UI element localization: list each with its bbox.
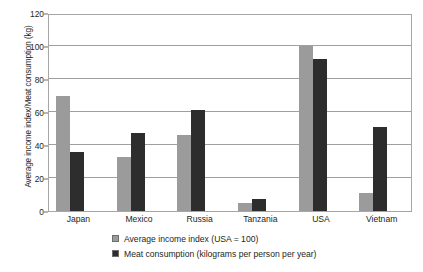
- plot-area: [48, 14, 412, 212]
- chart-legend: Average income index (USA = 100)Meat con…: [112, 232, 412, 262]
- bar-japan-income: [56, 96, 70, 212]
- bar-mexico-meat: [131, 133, 145, 211]
- x-tick-label-vietnam: Vietnam: [342, 214, 422, 224]
- legend-label: Average income index (USA = 100): [124, 234, 258, 244]
- bar-group-japan: [49, 15, 110, 211]
- y-tick-label-60: 60: [6, 108, 48, 118]
- bar-group-tanzania: [231, 15, 292, 211]
- bar-group-vietnam: [352, 15, 413, 211]
- legend-label: Meat consumption (kilograms per person p…: [124, 249, 317, 259]
- bar-mexico-income: [117, 157, 131, 211]
- y-tick-label-100: 100: [6, 42, 48, 52]
- y-tick-label-80: 80: [6, 75, 48, 85]
- y-axis-tick-labels: 020406080100120: [0, 14, 48, 212]
- bar-vietnam-income: [359, 193, 373, 211]
- legend-item-income: Average income index (USA = 100): [112, 232, 412, 245]
- bar-usa-income: [299, 46, 313, 211]
- y-tick-label-40: 40: [6, 141, 48, 151]
- legend-item-meat: Meat consumption (kilograms per person p…: [112, 247, 412, 260]
- bar-tanzania-meat: [252, 199, 266, 211]
- bar-vietnam-meat: [373, 127, 387, 211]
- legend-swatch-icon-income: [112, 235, 119, 242]
- bar-russia-income: [177, 135, 191, 211]
- bar-usa-meat: [313, 59, 327, 211]
- bar-chart-figure: Average income index/Meat consumption (k…: [0, 0, 423, 272]
- bar-russia-meat: [191, 110, 205, 211]
- bars-layer: [49, 15, 411, 211]
- x-axis-tick-labels: JapanMexicoRussiaTanzaniaUSAVietnam: [48, 214, 412, 230]
- legend-swatch-icon-meat: [112, 250, 119, 257]
- bar-group-russia: [170, 15, 231, 211]
- y-tick-label-120: 120: [6, 9, 48, 19]
- bar-tanzania-income: [238, 203, 252, 211]
- y-tick-label-20: 20: [6, 174, 48, 184]
- bar-group-usa: [292, 15, 353, 211]
- bar-japan-meat: [70, 152, 84, 211]
- bar-group-mexico: [110, 15, 171, 211]
